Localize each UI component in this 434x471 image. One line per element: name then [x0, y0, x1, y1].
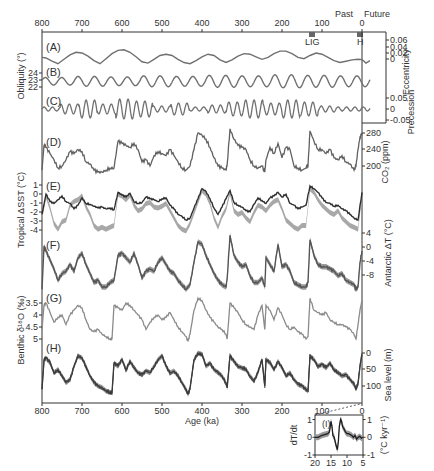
lig-label: LIG: [305, 37, 320, 47]
eccentricity-axis-title: Eccentricity: [401, 48, 411, 95]
obliquity-curve: [42, 75, 370, 88]
inset-right-tick-label: -1: [367, 450, 375, 460]
y-tick-label: 100: [366, 381, 381, 391]
inset-x-tick-label: 20: [310, 458, 320, 468]
co2-curve: [42, 129, 362, 173]
benthic-d18o-axis-title: Benthic δ¹⁸O (‰): [16, 296, 26, 365]
inset-left-tick-label: 1: [307, 415, 312, 425]
co2-axis-title: CO₂ (ppm): [380, 141, 390, 184]
y-tick-label: -8: [366, 270, 374, 280]
y-tick-label: 280: [366, 128, 381, 138]
panel-label-b: (B): [46, 66, 61, 78]
sea-level-band: [42, 351, 362, 397]
top-tick-label: 0: [359, 18, 364, 28]
y-tick-label: 0: [366, 242, 371, 252]
bottom-tick-label: 200: [274, 406, 289, 416]
obliquity-axis-title: Obliquity (°): [16, 52, 26, 99]
bottom-tick-label: 600: [114, 406, 129, 416]
precession-curve: [42, 99, 370, 119]
y-tick-label: 3.5: [25, 298, 38, 308]
top-tick-label: 700: [74, 18, 89, 28]
y-tick-label: 50: [366, 364, 376, 374]
tropical-sst-axis-title: Tropical ΔSST (°C): [16, 172, 26, 248]
inset-right-axis-title: (°C kyr⁻¹): [379, 416, 389, 455]
panel-label-d: (D): [46, 136, 61, 148]
top-tick-label: 800: [34, 18, 49, 28]
y-tick-label: 4: [366, 228, 371, 238]
panel-label-a: (A): [46, 41, 61, 53]
top-tick-label: 300: [234, 18, 249, 28]
antarctic-t-curve: [42, 235, 362, 289]
past-label: Past: [335, 9, 354, 19]
sea-level-curve-1: [42, 353, 362, 395]
paleoclimate-figure: 8007006005004003002001000 Past Future LI…: [0, 0, 434, 471]
antarctic-t-axis-title: Antarctic ΔT (°C): [383, 219, 393, 286]
antarctic-t-band: [42, 232, 362, 292]
bottom-tick-label: 400: [194, 406, 209, 416]
h-label: H: [357, 37, 364, 47]
top-tick-label: 100: [314, 18, 329, 28]
tropical-sst-band: [42, 186, 362, 233]
y-tick-label: 200: [366, 161, 381, 171]
top-tick-label: 600: [114, 18, 129, 28]
top-tick-label: 400: [194, 18, 209, 28]
inset-x-tick-label: 10: [342, 458, 352, 468]
inset-right-tick-label: 0: [367, 432, 372, 442]
inset-left-tick-label: 0: [307, 432, 312, 442]
inset-x-tick-label: 5: [360, 458, 365, 468]
panel-label-e: (E): [46, 180, 61, 192]
y-tick-label: 0: [366, 348, 371, 358]
y-tick-label: 22: [28, 82, 38, 92]
inset-left-axis-title: dT/dt: [289, 424, 299, 445]
y-tick-label: 4.5: [25, 322, 38, 332]
bottom-tick-label: 800: [34, 406, 49, 416]
y-tick-label: 240: [366, 144, 381, 154]
top-axis: 8007006005004003002001000 Past Future LI…: [34, 9, 390, 47]
eccentricity-curve: [42, 50, 370, 64]
y-tick-label: 4: [33, 310, 38, 320]
precession-axis-title: Precession: [406, 90, 416, 135]
bottom-tick-label: 700: [74, 406, 89, 416]
panel-label-i: (I): [322, 419, 331, 429]
inset-panel-i: 1100-1-12015105 (I) dT/dt (°C kyr⁻¹): [289, 415, 389, 468]
panel-label-h: (H): [46, 342, 61, 354]
y-tick-label: 0: [390, 54, 395, 64]
panel-label-g: (G): [46, 292, 62, 304]
top-tick-label: 200: [274, 18, 289, 28]
y-tick-label: -4: [30, 225, 38, 235]
inset-x-tick-label: 15: [326, 458, 336, 468]
x-axis-title: Age (ka): [185, 416, 219, 426]
panel-label-f: (F): [46, 239, 60, 251]
y-tick-label: -4: [366, 256, 374, 266]
sea-level-axis-title: Sea level (m): [383, 348, 393, 401]
future-label: Future: [364, 9, 390, 19]
y-tick-label: 5: [33, 334, 38, 344]
top-tick-label: 500: [154, 18, 169, 28]
bottom-tick-label: 500: [154, 406, 169, 416]
benthic-d18o-curve: [42, 298, 362, 341]
inset-right-tick-label: 1: [367, 415, 372, 425]
bottom-tick-label: 300: [234, 406, 249, 416]
panel-label-c: (C): [46, 95, 61, 107]
y-tick-label: 0: [390, 104, 395, 114]
